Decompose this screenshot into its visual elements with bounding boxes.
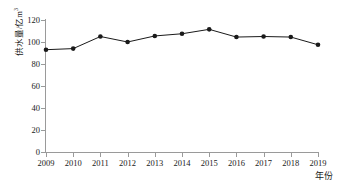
data-point	[207, 27, 212, 32]
data-point	[180, 31, 185, 36]
x-axis-title: 年份	[315, 172, 333, 181]
data-point	[125, 40, 130, 45]
data-point	[153, 34, 158, 39]
data-point	[261, 34, 266, 39]
data-point	[234, 35, 239, 40]
data-point	[289, 35, 294, 40]
data-point	[44, 47, 49, 52]
series-markers	[44, 27, 321, 52]
data-point	[71, 46, 76, 51]
data-point	[316, 42, 321, 47]
data-series-layer	[0, 0, 341, 192]
data-point	[98, 34, 103, 39]
chart-figure: 供水量/亿m3 020406080100120 2009201020112012…	[0, 0, 341, 192]
